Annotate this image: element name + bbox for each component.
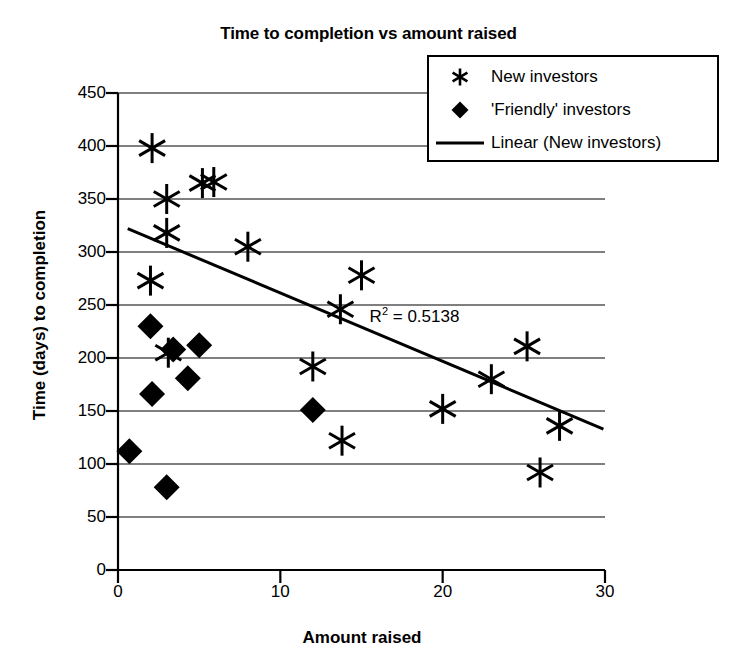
data-point-diamond xyxy=(137,313,163,339)
scatter-chart: Time to completion vs amount raised Time… xyxy=(0,0,737,668)
chart-legend: New investors 'Friendly' investors Linea… xyxy=(427,55,719,162)
data-point-asterisk xyxy=(300,351,326,381)
legend-label: New investors xyxy=(491,67,598,87)
data-point-diamond xyxy=(116,438,142,464)
data-point-diamond xyxy=(186,332,212,358)
data-point-asterisk xyxy=(527,457,553,487)
data-point-asterisk xyxy=(235,232,261,262)
trendline xyxy=(128,229,604,429)
data-point-asterisk xyxy=(139,133,165,163)
legend-item-linear-trend: Linear (New investors) xyxy=(429,126,717,159)
r-squared-annotation: R2 = 0.5138 xyxy=(370,305,460,327)
data-point-asterisk xyxy=(430,394,456,424)
data-point-diamond xyxy=(154,474,180,500)
data-point-diamond xyxy=(300,397,326,423)
data-point-asterisk xyxy=(349,260,375,290)
data-point-asterisk xyxy=(329,426,355,456)
data-point-asterisk xyxy=(327,294,353,324)
data-point-diamond xyxy=(139,381,165,407)
series-asterisk xyxy=(137,133,572,487)
data-point-diamond xyxy=(175,365,201,391)
legend-item-new-investors: New investors xyxy=(429,60,717,93)
line-marker-icon xyxy=(429,136,491,150)
data-point-asterisk xyxy=(154,218,180,248)
legend-label: Linear (New investors) xyxy=(491,133,661,153)
legend-label: 'Friendly' investors xyxy=(491,100,631,120)
data-point-asterisk xyxy=(137,266,163,296)
series-diamond xyxy=(116,313,325,500)
data-point-diamond xyxy=(160,337,186,363)
data-point-asterisk xyxy=(514,331,540,361)
asterisk-marker-icon xyxy=(429,66,491,88)
diamond-marker-icon xyxy=(429,99,491,121)
legend-item-friendly-investors: 'Friendly' investors xyxy=(429,93,717,126)
